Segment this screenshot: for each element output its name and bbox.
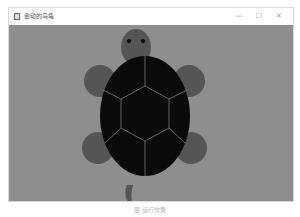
turtle-tail (125, 185, 135, 201)
drawing-canvas (9, 25, 293, 201)
window-title: 会动的乌龟 (24, 11, 54, 21)
minimize-button[interactable]: — (231, 10, 247, 22)
maximize-button[interactable]: ☐ (251, 10, 267, 22)
figure-caption: 图 运行效果 (0, 205, 300, 214)
turtle-drawing (9, 25, 293, 201)
title-bar[interactable]: 会动的乌龟 — ☐ ✕ (9, 8, 293, 25)
close-button[interactable]: ✕ (271, 10, 287, 22)
turtle-eye-left (127, 39, 131, 43)
turtle-eye-right (141, 39, 145, 43)
app-icon (14, 13, 20, 20)
app-window: 会动的乌龟 — ☐ ✕ (8, 7, 294, 202)
